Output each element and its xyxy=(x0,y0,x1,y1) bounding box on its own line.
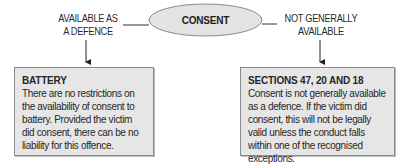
battery-box-body: There are no restrictions on the availab… xyxy=(22,87,146,152)
sections-box: SECTIONS 47, 20 AND 18 Consent is not ge… xyxy=(240,67,395,156)
center-node-label: CONSENT xyxy=(149,4,262,36)
right-branch-label-line-1: NOT GENERALLY xyxy=(280,12,363,25)
right-branch-label-line-2: AVAILABLE xyxy=(280,25,363,38)
left-branch-label-line-1: AVAILABLE AS xyxy=(51,12,125,25)
battery-box-title: BATTERY xyxy=(22,74,146,87)
left-branch-label: AVAILABLE AS A DEFENCE xyxy=(51,12,125,38)
battery-box: BATTERY There are no restrictions on the… xyxy=(14,67,154,156)
sections-box-title: SECTIONS 47, 20 AND 18 xyxy=(248,74,387,87)
left-branch-label-line-2: A DEFENCE xyxy=(51,25,125,38)
right-branch-label: NOT GENERALLY AVAILABLE xyxy=(280,12,363,38)
sections-box-body: Consent is not generally available as a … xyxy=(248,87,387,165)
